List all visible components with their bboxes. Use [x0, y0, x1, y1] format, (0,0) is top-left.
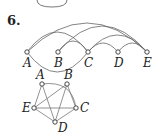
edge-a-c-above [27, 32, 88, 52]
edge-d-e [118, 43, 147, 52]
node-a [25, 50, 29, 54]
label-b: B [63, 68, 73, 82]
edge-c-d [88, 43, 118, 52]
edge-e-d [34, 108, 55, 122]
edge-b-e [34, 84, 67, 108]
edge-d-c [55, 108, 76, 122]
edge-a-c [42, 84, 76, 109]
node-d [53, 120, 57, 124]
label-d: D [57, 121, 68, 135]
label-e: E [142, 56, 152, 70]
label-a: A [35, 68, 45, 82]
graph-diagrams: A B C D E A B C D E [0, 0, 157, 139]
node-b [56, 50, 60, 54]
label-d: D [113, 56, 124, 70]
node-c [86, 50, 90, 54]
cropped-arc-top [37, 0, 67, 7]
node-d [116, 50, 120, 54]
edge-a-d [42, 84, 55, 122]
node-a [40, 82, 44, 86]
label-c: C [80, 101, 89, 115]
edge-b-c [58, 41, 88, 52]
arc-graph-nodes [25, 50, 149, 54]
label-a: A [22, 56, 32, 70]
edge-a-e [34, 84, 42, 108]
node-e [32, 106, 36, 110]
node-b [65, 82, 69, 86]
node-e [145, 50, 149, 54]
label-e: E [21, 101, 31, 115]
edge-b-c [67, 84, 76, 108]
pentagon-graph-labels: A B C D E [21, 68, 89, 135]
pentagon-graph [34, 84, 76, 123]
pentagon-graph-nodes [32, 82, 78, 124]
edge-b-d [55, 84, 67, 122]
label-b: B [53, 56, 63, 70]
label-c: C [84, 56, 93, 70]
node-c [74, 106, 78, 110]
